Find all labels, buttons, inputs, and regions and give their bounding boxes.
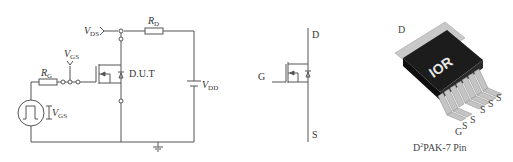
pin-label-s3: S xyxy=(480,104,486,115)
pin-label-s1: S xyxy=(462,120,468,131)
test-circuit xyxy=(18,27,201,151)
rd-label: RD xyxy=(147,15,159,28)
pin-label-s2: S xyxy=(470,114,476,125)
rg-label: RG xyxy=(40,67,52,80)
mosfet-symbol xyxy=(272,28,311,142)
drain-label: D xyxy=(312,29,319,40)
package-image: IOR xyxy=(395,22,502,121)
vgs-source-label: VGS xyxy=(52,107,67,120)
vds-label: VDS xyxy=(84,25,99,38)
pin-label-s4: S xyxy=(488,98,494,109)
package-drain-label: D xyxy=(398,24,405,35)
pin-label-s5: S xyxy=(496,92,502,103)
package-caption: D2PAK-7 Pin xyxy=(413,142,467,153)
rd-resistor xyxy=(145,28,163,34)
dut-label: D.U.T xyxy=(129,68,155,79)
gate-label: G xyxy=(258,71,265,82)
vdd-label: VDD xyxy=(202,79,218,92)
pulse-source-icon xyxy=(18,100,44,126)
vgs-top-label: VGS xyxy=(64,48,79,61)
figure: VDS RD VGS RG D.U.T VDD VGS D G S IOR xyxy=(0,0,513,162)
source-label: S xyxy=(312,129,318,140)
